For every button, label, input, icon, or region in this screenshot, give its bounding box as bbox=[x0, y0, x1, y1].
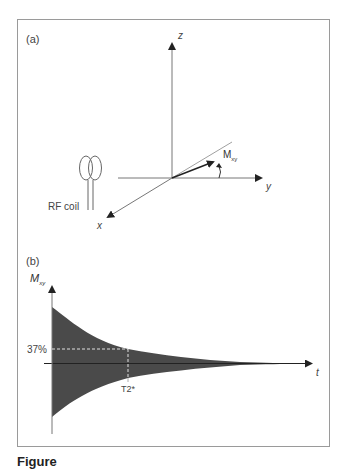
x-axis-label: x bbox=[96, 220, 103, 231]
panel-a-label: (a) bbox=[26, 33, 39, 45]
y-axis-label: y bbox=[265, 181, 272, 192]
mxy-vector bbox=[172, 162, 213, 178]
panel-b: (b) Mxy t 37% T2* bbox=[26, 255, 320, 434]
rotating-frame-line bbox=[172, 142, 232, 178]
mxy-label: Mxy bbox=[223, 149, 237, 162]
panel-b-label: (b) bbox=[26, 255, 39, 267]
t-axis-label: t bbox=[316, 367, 320, 378]
figure-caption: Figure bbox=[17, 454, 57, 469]
decay-envelope bbox=[52, 307, 296, 417]
panel-a: (a) z y x Mxy RF coil bbox=[26, 30, 272, 231]
mxy-axis-label: Mxy bbox=[30, 272, 46, 286]
level-37-label: 37% bbox=[27, 344, 47, 355]
z-axis-label: z bbox=[177, 30, 183, 41]
t2star-label: T2* bbox=[121, 384, 136, 394]
rotation-arrow-icon bbox=[219, 166, 221, 178]
rf-coil-icon bbox=[80, 156, 102, 210]
x-axis bbox=[108, 178, 172, 217]
rf-coil-label: RF coil bbox=[48, 201, 79, 212]
